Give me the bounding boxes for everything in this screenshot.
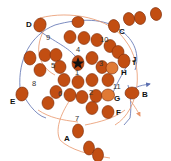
label-8: 8: [32, 79, 36, 88]
label-E: E: [10, 97, 16, 106]
label-1: 1: [75, 68, 79, 77]
label-3: 3: [99, 59, 103, 68]
label-4: 4: [76, 45, 80, 54]
label-10: 10: [100, 35, 108, 44]
cells: [14, 6, 163, 161]
label-9: 9: [46, 33, 50, 42]
label-2: 2: [89, 88, 93, 97]
label-5: 5: [51, 61, 55, 70]
cell-diagram: A B C D E F G H I J 1 2 3 4 5 6 7 8 9 10…: [0, 0, 171, 161]
label-6: 6: [58, 89, 62, 98]
label-F: F: [116, 108, 121, 117]
label-7: 7: [75, 114, 79, 123]
label-J: J: [132, 55, 136, 64]
label-D: D: [26, 20, 32, 29]
label-G: G: [114, 94, 120, 103]
label-A: A: [64, 134, 70, 143]
label-B: B: [142, 90, 148, 99]
label-C: C: [119, 27, 125, 36]
label-H: H: [121, 68, 127, 77]
label-11: 11: [113, 82, 121, 91]
